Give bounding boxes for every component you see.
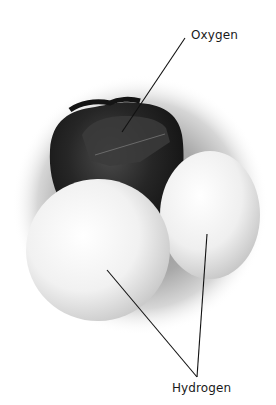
oxygen-label: Oxygen <box>191 28 238 42</box>
molecule-diagram <box>0 0 276 405</box>
hydrogen-label: Hydrogen <box>172 381 231 395</box>
hydrogen-atom-right <box>160 151 260 279</box>
